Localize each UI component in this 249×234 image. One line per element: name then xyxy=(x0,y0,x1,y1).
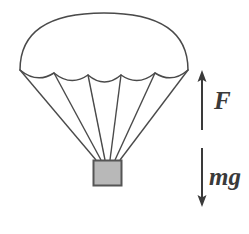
canopy-scallop-4 xyxy=(121,73,155,81)
force-up-label: F xyxy=(214,88,231,113)
force-down-arrow xyxy=(198,148,207,207)
suspension-line-5 xyxy=(115,73,155,160)
suspension-line-4 xyxy=(110,75,121,160)
suspension-line-3 xyxy=(88,75,105,160)
force-up-arrow xyxy=(198,70,207,130)
canopy-scallop-3 xyxy=(88,75,121,82)
suspension-lines xyxy=(20,70,188,160)
force-down-label: mg xyxy=(209,164,241,189)
suspension-line-2 xyxy=(54,73,101,160)
diagram-canvas xyxy=(0,0,249,234)
suspension-line-1 xyxy=(20,70,96,160)
canopy-dome-arc xyxy=(20,13,188,70)
payload-box xyxy=(94,161,122,186)
canopy-scallop-2 xyxy=(54,73,88,81)
suspension-line-6 xyxy=(120,70,188,160)
parachute-force-diagram: F mg xyxy=(0,0,249,234)
parachute-canopy xyxy=(20,13,188,82)
